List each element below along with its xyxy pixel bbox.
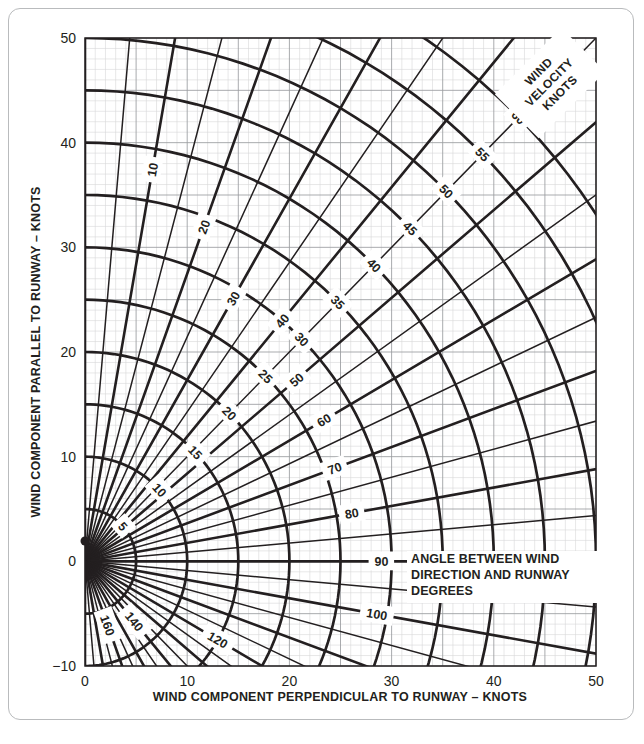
x-axis-tick-labels: 01020304050	[81, 673, 604, 689]
angle-annotation-line-2: DIRECTION AND RUNWAY	[411, 568, 570, 582]
angle-ray-label-80: 80	[337, 501, 365, 524]
chart-card: 5101520253035404550556010203040506070809…	[8, 8, 634, 720]
angle-ray-label-30: 30	[218, 283, 247, 314]
x-tick-label-4: 40	[486, 673, 502, 689]
x-tick-label-2: 20	[282, 673, 298, 689]
angle-annotation-line-3: DEGREES	[411, 584, 473, 598]
y-tick-label-4: 30	[60, 239, 76, 255]
y-tick-label-6: 50	[60, 30, 76, 46]
angle-ray-label-80-text: 80	[344, 506, 360, 522]
x-tick-label-3: 30	[384, 673, 400, 689]
x-tick-label-5: 50	[588, 673, 604, 689]
crosswind-component-chart: 5101520253035404550556010203040506070809…	[9, 9, 635, 721]
x-tick-label-1: 10	[179, 673, 195, 689]
x-tick-label-0: 0	[81, 673, 89, 689]
y-tick-label-0: −10	[52, 658, 76, 674]
y-tick-label-3: 20	[60, 344, 76, 360]
angle-ray-label-10-text: 10	[145, 162, 161, 178]
angle-annotation-line-1: ANGLE BETWEEN WIND	[411, 552, 559, 566]
y-tick-label-2: 10	[60, 449, 76, 465]
angle-ray-label-70: 70	[319, 455, 349, 482]
angle-ray-label-10: 10	[141, 155, 164, 183]
angle-ray-label-90: 90	[369, 552, 395, 571]
angle-ray-label-60: 60	[308, 405, 340, 434]
y-tick-label-5: 40	[60, 135, 76, 151]
page-root: 5101520253035404550556010203040506070809…	[0, 0, 644, 744]
y-axis-tick-labels: −1001020304050	[52, 30, 76, 674]
y-axis-title: WIND COMPONENT PARALLEL TO RUNWAY – KNOT…	[29, 186, 43, 517]
angle-annotation: ANGLE BETWEEN WIND DIRECTION AND RUNWAY …	[407, 551, 597, 603]
y-tick-label-1: 0	[68, 553, 76, 569]
x-axis-title: WIND COMPONENT PERPENDICULAR TO RUNWAY –…	[153, 690, 527, 704]
angle-ray-label-90-text: 90	[374, 555, 388, 569]
